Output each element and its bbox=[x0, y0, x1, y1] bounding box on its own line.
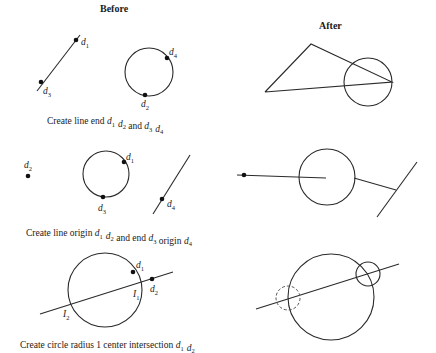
point-label: d3 bbox=[98, 203, 106, 215]
before-point bbox=[39, 80, 44, 85]
example-caption: Create line origin d1d2 and end d3 origi… bbox=[26, 228, 193, 247]
point-label: d3 bbox=[43, 86, 51, 98]
example-caption: Create line end d1d2 and d3d4 bbox=[47, 116, 164, 135]
point-label: d2 bbox=[24, 160, 32, 172]
after-panel bbox=[237, 149, 417, 217]
example-row-3: d1d2I1I2Create circle radius 1 center in… bbox=[20, 253, 399, 353]
before-point bbox=[101, 195, 106, 200]
before-circle bbox=[83, 151, 129, 197]
after-line bbox=[377, 162, 417, 217]
before-circle bbox=[125, 48, 173, 96]
before-point bbox=[150, 277, 155, 282]
after-header: After bbox=[319, 20, 342, 31]
after-circle bbox=[344, 58, 392, 106]
point-label: d2 bbox=[141, 99, 149, 111]
point-label: d1 bbox=[136, 260, 144, 272]
before-panel: d1d3d4d2 bbox=[37, 35, 178, 111]
point-label: d1 bbox=[81, 37, 89, 49]
after-panel bbox=[256, 254, 399, 340]
after-circle bbox=[288, 254, 374, 340]
before-line bbox=[37, 35, 80, 91]
after-triangle bbox=[265, 44, 392, 92]
before-point bbox=[143, 93, 148, 98]
example-caption: Create circle radius 1 center intersecti… bbox=[20, 340, 195, 353]
before-header: Before bbox=[100, 3, 129, 14]
before-point bbox=[26, 174, 31, 179]
before-circle bbox=[68, 253, 142, 327]
example-row-2: d2d1d3d4Create line origin d1d2 and end … bbox=[24, 149, 417, 247]
intersection-label: I1 bbox=[132, 289, 139, 301]
after-line bbox=[237, 175, 326, 178]
examples: d1d3d4d2Create line end d1d2 and d3d4d2d… bbox=[20, 35, 417, 353]
point-label: d4 bbox=[169, 47, 178, 59]
after-panel bbox=[265, 44, 392, 106]
point-label: d4 bbox=[167, 199, 176, 211]
before-point bbox=[160, 197, 165, 202]
example-row-1: d1d3d4d2Create line end d1d2 and d3d4 bbox=[37, 35, 392, 135]
point-label: d2 bbox=[150, 284, 158, 296]
before-panel: d2d1d3d4 bbox=[24, 151, 190, 215]
before-point bbox=[74, 38, 79, 43]
intersection-label: I2 bbox=[62, 309, 69, 321]
diagram-canvas: Before After d1d3d4d2Create line end d1d… bbox=[0, 0, 436, 353]
before-point bbox=[131, 270, 136, 275]
point-label: d1 bbox=[126, 152, 134, 164]
after-line bbox=[256, 264, 399, 309]
before-panel: d1d2I1I2 bbox=[40, 253, 173, 327]
after-point bbox=[242, 173, 247, 178]
after-line bbox=[354, 178, 396, 190]
